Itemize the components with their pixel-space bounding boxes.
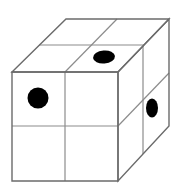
cube-figure <box>0 0 179 193</box>
dot-front-upper-left <box>28 88 49 109</box>
dot-right-upper-back <box>146 99 158 118</box>
cube-diagram <box>0 0 179 193</box>
